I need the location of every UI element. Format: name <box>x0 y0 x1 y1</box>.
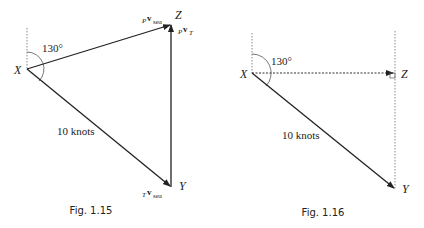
vector-label-p-v-t: P v T <box>177 24 194 37</box>
point-z-label: Z <box>175 8 182 22</box>
point-y-label: Y <box>179 179 187 193</box>
side-length-label: 10 knots <box>282 129 320 141</box>
svg-text:sea: sea <box>153 18 163 26</box>
svg-text:v: v <box>147 13 152 23</box>
svg-text:v: v <box>183 24 188 34</box>
svg-text:T: T <box>189 29 194 37</box>
point-x-label: X <box>13 63 22 77</box>
vector-xy <box>27 69 170 186</box>
angle-label: 130° <box>42 42 63 54</box>
figure-1-15: 130° X Z Y 10 knots P v sea P v T T v se… <box>13 8 194 216</box>
point-z-label: Z <box>401 67 408 81</box>
vector-label-t-v-sea: T v sea <box>142 187 163 200</box>
vector-xy <box>252 73 394 188</box>
figure-caption: Fig. 1.15 <box>70 205 113 216</box>
figure-caption: Fig. 1.16 <box>302 207 345 218</box>
side-length-label: 10 knots <box>57 125 95 137</box>
point-x-label: X <box>239 67 248 81</box>
diagram-canvas: 130° X Z Y 10 knots P v sea P v T T v se… <box>0 0 424 228</box>
svg-text:sea: sea <box>153 192 163 200</box>
svg-text:v: v <box>147 187 152 197</box>
angle-label: 130° <box>271 55 292 67</box>
vector-label-p-v-sea: P v sea <box>141 13 163 26</box>
point-y-label: Y <box>402 182 410 196</box>
right-angle-marker <box>390 73 395 78</box>
figure-1-16: 130° X Z Y 10 knots Fig. 1.16 <box>239 31 410 218</box>
